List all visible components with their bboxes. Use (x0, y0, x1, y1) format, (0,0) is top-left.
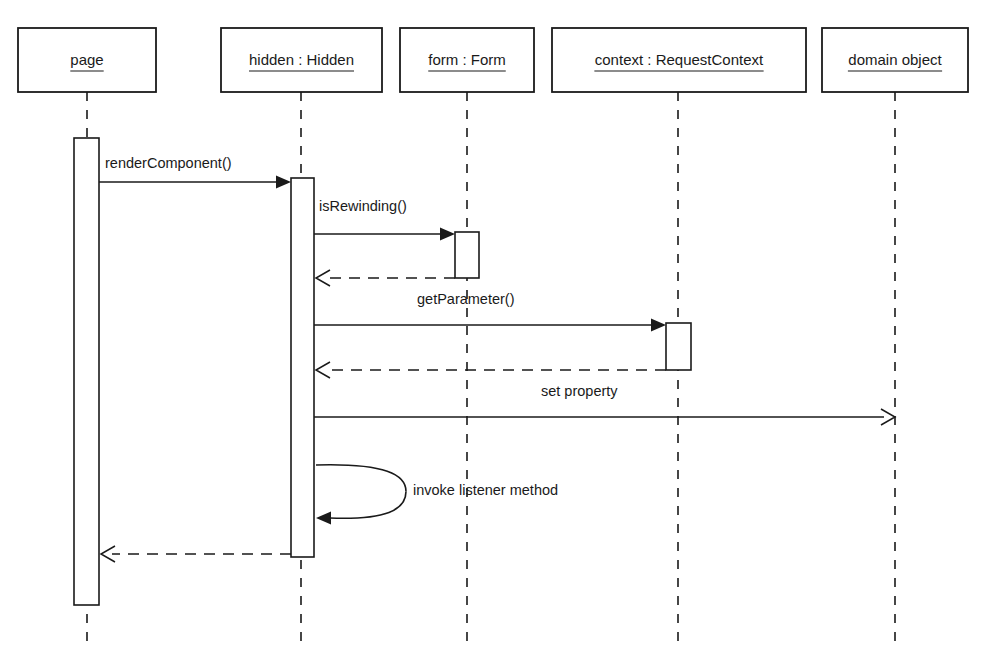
object-label-form: form : Form (428, 51, 506, 68)
uml-sequence-diagram: pagehidden : Hiddenform : Formcontext : … (0, 0, 998, 664)
form-activation[interactable] (455, 232, 479, 278)
context-activation[interactable] (666, 323, 691, 370)
msg-final-return[interactable] (101, 546, 291, 562)
msg-render-component[interactable]: renderComponent() (99, 155, 291, 189)
page-activation[interactable] (74, 138, 99, 605)
msg-invoke-listener-curve-lower (330, 492, 406, 519)
lifeline-form[interactable]: form : Form (400, 28, 534, 645)
self-messages-layer: invoke listener method (316, 465, 558, 525)
msg-get-parameter-label: getParameter() (417, 291, 515, 307)
object-label-hidden: hidden : Hidden (249, 51, 354, 68)
msg-is-rewinding-label: isRewinding() (319, 198, 407, 214)
msg-invoke-listener-arrowhead (316, 512, 331, 525)
msg-is-rewinding-return-arrowhead (316, 270, 330, 286)
msg-is-rewinding-arrowhead (440, 228, 455, 241)
lifeline-domain[interactable]: domain object (822, 28, 968, 645)
msg-get-parameter-arrowhead (651, 319, 666, 332)
hidden-activation[interactable] (291, 178, 314, 557)
msg-render-component-arrowhead (276, 176, 291, 189)
msg-invoke-listener-label: invoke listener method (413, 482, 558, 498)
messages-layer: renderComponent()isRewinding()getParamet… (99, 155, 895, 562)
msg-set-property-label: set property (541, 383, 618, 399)
object-label-context: context : RequestContext (595, 51, 764, 68)
object-label-domain: domain object (848, 51, 942, 68)
object-label-page: page (70, 51, 103, 68)
msg-is-rewinding[interactable]: isRewinding() (314, 198, 455, 241)
msg-set-property[interactable]: set property (314, 383, 895, 425)
msg-render-component-label: renderComponent() (105, 155, 232, 171)
lifelines-layer: pagehidden : Hiddenform : Formcontext : … (18, 28, 968, 645)
msg-get-parameter-return-arrowhead (316, 362, 330, 378)
msg-get-parameter[interactable]: getParameter() (314, 291, 666, 332)
msg-invoke-listener[interactable]: invoke listener method (316, 465, 558, 525)
sequence-diagram-canvas: pagehidden : Hiddenform : Formcontext : … (0, 0, 998, 664)
msg-invoke-listener-curve-upper (316, 465, 406, 492)
msg-is-rewinding-return[interactable] (316, 270, 455, 286)
msg-get-parameter-return[interactable] (316, 362, 666, 378)
